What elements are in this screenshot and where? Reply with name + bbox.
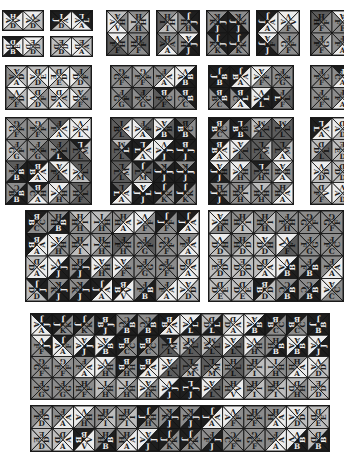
tile-letter: A xyxy=(252,73,261,80)
tile-letter: V xyxy=(277,241,286,249)
tile-letter: I xyxy=(158,20,167,24)
tile-letter: L xyxy=(312,126,321,131)
tile-letter: B xyxy=(294,441,300,450)
tile-letter: A xyxy=(138,436,147,443)
tile-letter: B xyxy=(7,190,16,196)
tile-cell: VJFF xyxy=(31,335,52,356)
tile-cell: FBBF xyxy=(298,256,320,279)
tile-cell: LMLL xyxy=(111,161,132,183)
tile-cell: FCCF xyxy=(321,234,343,257)
tile-cell: VDDA xyxy=(332,183,344,205)
tile-letter: H xyxy=(245,385,254,392)
tile-letter: H xyxy=(70,241,79,248)
tile-letter: H xyxy=(179,40,188,47)
tile-letter: F xyxy=(108,41,117,47)
tile-letter: F xyxy=(312,191,321,197)
tile-cell: CBBC xyxy=(298,279,320,302)
tile-cell: HIHH xyxy=(230,183,251,205)
tile-letter: A xyxy=(96,363,105,370)
tile-letter: D xyxy=(39,441,46,450)
tile-letter: F xyxy=(319,78,325,87)
tile-cell: BVVB xyxy=(113,279,135,302)
tile-letter: B xyxy=(138,343,147,349)
tile-letter: B xyxy=(112,126,121,132)
tile-block-r4-b: AHHAHIIHHIHHFHHFGFFGGFFGVHDDHDDHAHDDVFFV… xyxy=(208,210,344,302)
tile-letter: D xyxy=(4,44,12,50)
tile-cell: FAAF xyxy=(52,406,73,429)
tile-letter: F xyxy=(121,269,127,278)
tile-letter: A xyxy=(309,363,318,370)
tile-cell: VDDA xyxy=(308,357,329,378)
tile-letter: C xyxy=(299,287,308,293)
tile-letter: F xyxy=(60,369,66,378)
tile-cell: FAAF xyxy=(177,234,199,257)
tile-cell: VJJA xyxy=(308,335,329,356)
tile-cell: LMAL xyxy=(272,140,293,162)
tile-cell: HFFH xyxy=(311,11,332,33)
tile-cell: DEBD xyxy=(3,37,23,56)
tile-cell: AHHA xyxy=(137,378,158,399)
tile-cell: LMML xyxy=(180,357,201,378)
tile-cell: VHHA xyxy=(74,406,95,429)
tile-letter: A xyxy=(333,189,342,196)
tile-letter: E xyxy=(49,74,58,80)
tile-letter: C xyxy=(28,190,37,196)
tile-letter: F xyxy=(53,415,62,421)
tile-letter: A xyxy=(245,321,254,328)
tile-cell: BBCC xyxy=(175,88,196,110)
tile-letter: H xyxy=(232,219,241,226)
tile-cell: IHHI xyxy=(116,378,137,399)
tile-cell: ABBA xyxy=(286,335,307,356)
tile-cell: LJJL xyxy=(180,378,201,399)
tile-letter: H xyxy=(266,385,275,392)
tile-cell: DDEE xyxy=(49,66,70,88)
tile-cell: HAAH xyxy=(113,211,135,234)
tile-letter: B xyxy=(284,292,291,301)
tile-cell: HAAH xyxy=(286,357,307,378)
tile-letter: D xyxy=(35,78,41,87)
tile-cell: VJJA xyxy=(154,140,175,162)
tile-cell: FFGG xyxy=(6,140,27,162)
tile-letter: F xyxy=(32,343,41,349)
tile-block-r1-i: HFFHAAFFFGFFFAAF xyxy=(310,10,344,56)
tile-letter: G xyxy=(157,264,166,271)
tile-cell: LMLL xyxy=(251,140,272,162)
tile-letter: C xyxy=(138,322,147,328)
tile-cell: DAAD xyxy=(49,88,70,110)
tile-cell: CFFC xyxy=(223,429,244,452)
tile-cell: FGFF xyxy=(311,33,332,55)
tile-letter: B xyxy=(294,347,300,356)
tile-cell: BAAB xyxy=(209,140,230,162)
tile-cell: JAAJ xyxy=(257,11,278,33)
tile-cell: JHHJ xyxy=(137,406,158,429)
tile-cell: FBBF xyxy=(6,161,27,183)
tile-cell: JLML xyxy=(132,161,153,183)
tile-cell: JJDD xyxy=(26,279,48,302)
tile-letter: D xyxy=(312,147,321,153)
tile-letter: L xyxy=(112,148,121,153)
tile-letter: F xyxy=(32,415,41,421)
tile-letter: G xyxy=(140,100,146,109)
tile-letter: B xyxy=(138,364,147,370)
tile-letter: A xyxy=(224,413,233,420)
tile-letter: F xyxy=(319,100,325,109)
tile-cell: FHHF xyxy=(113,234,135,257)
tile-cell: LMML xyxy=(201,357,222,378)
tile-letter: L xyxy=(167,347,172,356)
tile-letter: A xyxy=(75,413,84,420)
tile-letter: A xyxy=(178,286,187,293)
tile-letter: F xyxy=(157,287,166,293)
tile-cell: DEED xyxy=(308,406,329,429)
tile-letter: F xyxy=(280,100,286,109)
tile-cell: GFFG xyxy=(6,118,27,140)
tile-letter: A xyxy=(74,342,83,349)
tile-cell: FJJF xyxy=(201,429,222,452)
tile-letter: D xyxy=(315,390,321,399)
tile-cell: DVFF xyxy=(311,183,332,205)
tile-letter: F xyxy=(333,19,342,25)
tile-letter: A xyxy=(96,342,105,349)
tile-letter: C xyxy=(231,95,240,101)
tile-letter: B xyxy=(160,322,169,328)
tile-letter: A xyxy=(223,342,232,349)
tile-letter: F xyxy=(277,220,286,226)
